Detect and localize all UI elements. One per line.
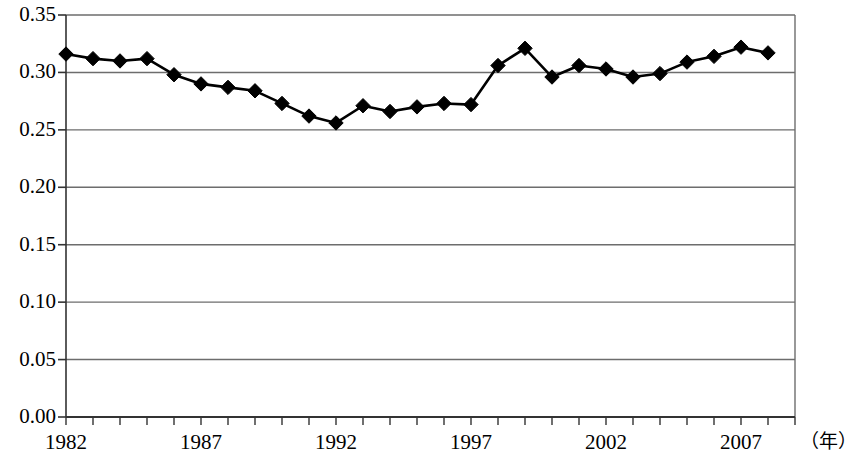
y-axis-tick-label: 0.05: [0, 349, 56, 370]
y-axis-tick-label: 0.30: [0, 61, 56, 82]
y-axis-tick-label: 0.00: [0, 406, 56, 427]
y-axis-tick-label: 0.20: [0, 176, 56, 197]
x-axis-tick-label: 1987: [166, 432, 236, 453]
y-axis-tick-label: 0.10: [0, 291, 56, 312]
x-axis-tick-label: 1992: [301, 432, 371, 453]
x-axis-tick-label: 1982: [31, 432, 101, 453]
x-axis-tick-label: 2002: [571, 432, 641, 453]
y-axis-tick-label: 0.35: [0, 4, 56, 25]
x-axis-tick-label: 2007: [706, 432, 776, 453]
x-axis-tick-label: 1997: [436, 432, 506, 453]
y-axis-tick-label: 0.15: [0, 234, 56, 255]
y-axis-tick-label: 0.25: [0, 119, 56, 140]
x-axis-unit-label: （年）: [800, 432, 849, 451]
